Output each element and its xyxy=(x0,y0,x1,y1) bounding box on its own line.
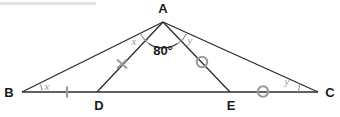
angle-arc-at-C xyxy=(298,84,300,93)
vertex-label-C: C xyxy=(325,85,335,100)
angle-label-at-B: x xyxy=(44,80,50,92)
tick-AD-cross xyxy=(117,60,127,69)
geometry-figure: A B C D E x x 80° y y xyxy=(0,0,340,117)
segment-BA xyxy=(22,22,163,92)
angle-label-BAD: x xyxy=(131,35,137,47)
vertex-label-D: D xyxy=(94,98,103,113)
angle-arc-at-B xyxy=(41,85,43,93)
angle-label-at-C: y xyxy=(284,75,290,87)
segment-AE xyxy=(163,22,230,92)
geometry-canvas: A B C D E x x 80° y y xyxy=(0,0,340,117)
angle-label-DAE: 80° xyxy=(153,43,173,58)
angle-label-EAC: y xyxy=(187,34,193,46)
segment-AC xyxy=(163,22,318,92)
vertex-label-B: B xyxy=(4,85,13,100)
vertex-label-E: E xyxy=(227,98,236,113)
vertex-label-A: A xyxy=(158,1,168,16)
